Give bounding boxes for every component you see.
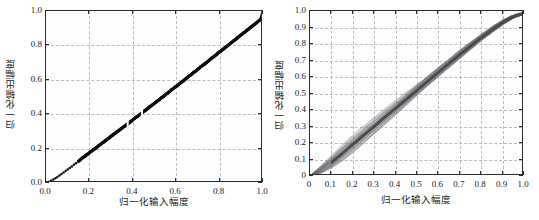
x-tick-top (459, 10, 460, 14)
y-tick-label: 0.4 (284, 104, 306, 114)
plot-area-left (45, 10, 262, 182)
y-tick (45, 44, 49, 45)
x-tick-label: 0.3 (368, 179, 379, 189)
x-tick (502, 171, 503, 175)
x-tick-label: 0.4 (389, 179, 400, 189)
y-tick-right (519, 10, 523, 11)
y-tick-label: 0.8 (20, 39, 42, 49)
y-tick (309, 10, 313, 11)
y-tick-label: 0.4 (20, 108, 42, 118)
y-tick-right (258, 10, 262, 11)
x-axis-label-right: 归一化输入幅度 (309, 192, 523, 206)
y-tick-label: 0.7 (284, 55, 306, 65)
x-tick (480, 171, 481, 175)
y-tick (309, 43, 313, 44)
y-tick (45, 10, 49, 11)
x-tick-top (502, 10, 503, 14)
y-tick (309, 175, 313, 176)
y-tick-right (519, 76, 523, 77)
x-axis-label-left: 归一化输入幅度 (45, 194, 262, 208)
y-tick-right (519, 43, 523, 44)
data-series-left (46, 11, 262, 182)
data-point (58, 174, 61, 177)
figure-page: 0.00.20.40.60.81.0 0.00.20.40.60.81.0 归一… (0, 0, 539, 220)
series-gap (127, 120, 129, 128)
y-tick (309, 109, 313, 110)
y-tick (309, 27, 313, 28)
y-tick-right (258, 113, 262, 114)
x-tick-top (523, 10, 524, 14)
data-point (69, 167, 72, 170)
y-tick-right (258, 182, 262, 183)
data-point (60, 173, 63, 176)
y-tick-right (258, 44, 262, 45)
x-tick (88, 178, 89, 182)
series-gap (141, 109, 143, 117)
x-tick-top (262, 10, 263, 14)
data-point (62, 171, 64, 174)
data-point (71, 165, 74, 168)
y-tick (45, 79, 49, 80)
data-point (75, 162, 78, 165)
y-tick-label: 0.0 (20, 177, 42, 187)
y-axis-label-left: 归一化输出幅度 (4, 34, 18, 154)
y-tick-label: 0 (284, 170, 306, 180)
y-tick-right (519, 142, 523, 143)
chart-panel-right: 00.10.20.30.40.50.60.70.80.91.0 00.10.20… (270, 0, 539, 220)
x-tick (523, 171, 524, 175)
y-tick-right (519, 60, 523, 61)
x-tick-label: 0.6 (432, 179, 443, 189)
y-tick-right (519, 93, 523, 94)
x-tick-label: 0.2 (346, 179, 357, 189)
x-tick (416, 171, 417, 175)
x-tick-top (395, 10, 396, 14)
x-tick (330, 171, 331, 175)
y-tick-label: 0.2 (20, 143, 42, 153)
y-tick-label: 0.8 (284, 38, 306, 48)
x-tick (373, 171, 374, 175)
x-tick (132, 178, 133, 182)
x-tick-top (373, 10, 374, 14)
y-tick-right (258, 79, 262, 80)
y-tick (309, 93, 313, 94)
x-tick (352, 171, 353, 175)
y-tick-label: 1.0 (284, 5, 306, 15)
plot-area-right (309, 10, 523, 175)
x-tick (459, 171, 460, 175)
x-tick-top (132, 10, 133, 14)
data-series-right (310, 11, 523, 175)
y-tick (45, 182, 49, 183)
x-tick (262, 178, 263, 182)
y-tick (45, 148, 49, 149)
chart-panel-left: 0.00.20.40.60.81.0 0.00.20.40.60.81.0 归一… (0, 0, 270, 220)
y-tick-label: 0.6 (284, 71, 306, 81)
y-tick (45, 113, 49, 114)
y-tick (309, 142, 313, 143)
data-point (66, 168, 69, 171)
y-tick-label: 0.9 (284, 22, 306, 32)
x-tick-top (352, 10, 353, 14)
y-tick-label: 0.6 (20, 74, 42, 84)
x-tick-top (88, 10, 89, 14)
y-tick-right (519, 159, 523, 160)
x-tick-label: 0.5 (410, 179, 421, 189)
x-tick-top (480, 10, 481, 14)
y-tick-label: 0.5 (284, 88, 306, 98)
data-point (56, 176, 59, 179)
y-axis-label-right: 归一化输出幅度 (273, 36, 287, 154)
x-tick (175, 178, 176, 182)
y-tick (309, 126, 313, 127)
x-tick (219, 178, 220, 182)
x-tick-label: 1.0 (517, 179, 528, 189)
y-tick-label: 0.1 (284, 154, 306, 164)
x-tick (437, 171, 438, 175)
x-tick-top (437, 10, 438, 14)
x-tick-label: 0.9 (496, 179, 507, 189)
y-tick-label: 1.0 (20, 5, 42, 15)
x-tick (395, 171, 396, 175)
x-tick-top (175, 10, 176, 14)
y-tick-right (519, 126, 523, 127)
y-tick (309, 76, 313, 77)
x-tick-top (330, 10, 331, 14)
y-tick-label: 0.3 (284, 121, 306, 131)
